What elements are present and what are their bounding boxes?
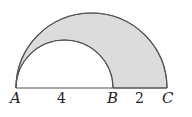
segment-label-ab: 4 [57, 90, 66, 106]
shaded-region [16, 13, 167, 88]
semicircle-diagram: A 4 B 2 C [0, 0, 192, 117]
segment-label-bc: 2 [135, 90, 144, 106]
point-label-a: A [8, 89, 21, 107]
point-label-b: B [106, 89, 118, 107]
point-label-c: C [162, 89, 174, 107]
